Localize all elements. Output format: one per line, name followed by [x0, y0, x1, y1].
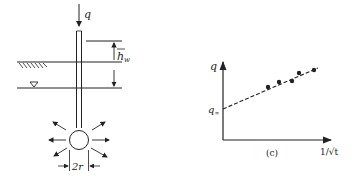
diameter-label: 2r — [71, 161, 84, 172]
intercept-label: q∞ — [208, 104, 219, 116]
head-label: hw — [117, 50, 130, 64]
y-axis-label: q — [210, 60, 217, 73]
panel-label: (c) — [266, 148, 278, 158]
test-cavity — [70, 131, 89, 150]
q-vs-time-chart: q 1/√t (c) q∞ — [208, 60, 338, 158]
water-table-icon — [30, 82, 38, 87]
flow-label: q — [84, 8, 91, 21]
ground-hatch — [19, 63, 47, 68]
well-test-figure: q hw — [17, 4, 130, 172]
fit-line — [223, 68, 318, 109]
x-axis-label: 1/√t — [320, 147, 338, 157]
diagram-canvas: q hw — [0, 0, 364, 182]
data-points — [266, 68, 316, 89]
